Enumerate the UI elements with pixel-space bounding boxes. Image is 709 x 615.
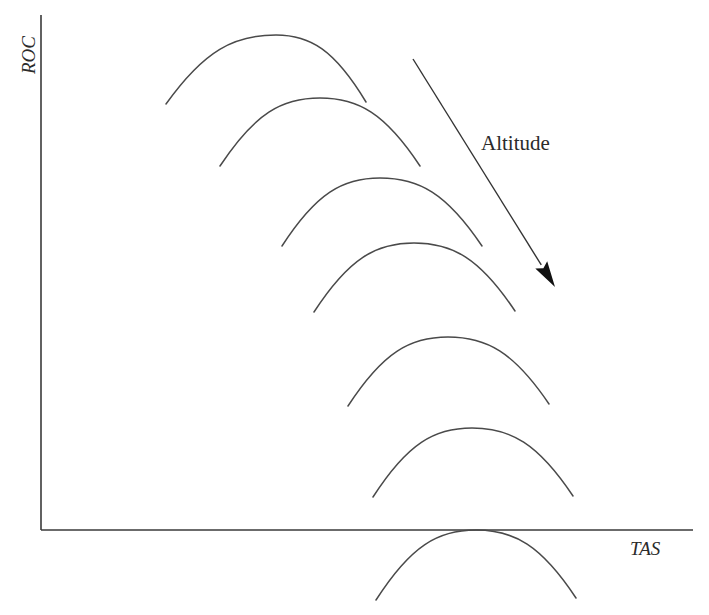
x-axis-label: TAS	[630, 538, 660, 560]
roc-curve-3	[282, 178, 482, 246]
roc-vs-tas-diagram	[0, 0, 709, 615]
altitude-arrow	[413, 59, 555, 287]
roc-curve-2	[220, 98, 420, 166]
y-axis-label: ROC	[18, 30, 40, 80]
roc-curve-1	[166, 35, 366, 104]
arrow-head-icon	[535, 261, 555, 287]
roc-curve-6	[373, 428, 573, 497]
roc-curve-7	[376, 530, 576, 600]
roc-curve-5	[348, 337, 549, 406]
altitude-arrow-shaft	[413, 59, 541, 265]
roc-curve-4	[314, 243, 515, 312]
axes	[41, 15, 693, 530]
roc-curves	[166, 35, 576, 600]
altitude-arrow-label: Altitude	[481, 131, 550, 156]
